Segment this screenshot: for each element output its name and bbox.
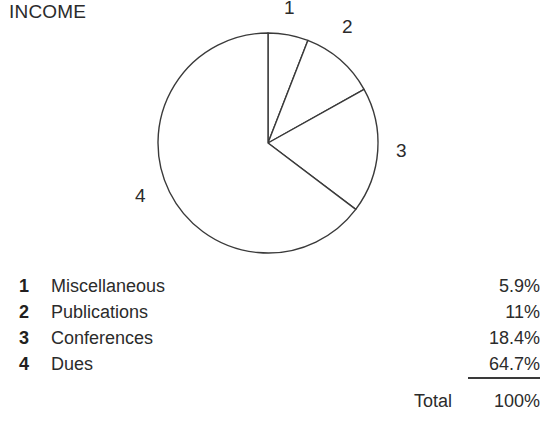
total-row: Total 100%	[0, 391, 550, 417]
pie-slice-label-3: 3	[396, 141, 407, 160]
legend-key: 1	[19, 276, 33, 297]
legend-row: 2 Publications 11%	[0, 302, 550, 328]
legend-label: Dues	[51, 354, 93, 375]
income-pie-chart: INCOME 1 2 3 4 1 Miscellaneous 5.9% 2 Pu…	[0, 0, 550, 423]
legend-value: 5.9%	[499, 276, 540, 297]
pie-chart-area: 1 2 3 4	[0, 0, 440, 268]
legend-row: 3 Conferences 18.4%	[0, 328, 550, 354]
total-label: Total	[414, 391, 452, 412]
legend-label: Miscellaneous	[51, 276, 165, 297]
pie-svg	[0, 0, 440, 268]
total-divider-rule	[468, 377, 540, 379]
legend-key: 4	[19, 354, 33, 375]
legend-table: 1 Miscellaneous 5.9% 2 Publications 11% …	[0, 276, 550, 380]
pie-slice-label-2: 2	[342, 17, 353, 36]
pie-slice-label-4: 4	[135, 186, 146, 205]
legend-key: 2	[19, 302, 33, 323]
legend-label: Conferences	[51, 328, 153, 349]
total-value: 100%	[494, 391, 540, 412]
legend-value: 18.4%	[489, 328, 540, 349]
legend-value: 64.7%	[489, 354, 540, 375]
pie-slices	[158, 33, 378, 253]
legend-key: 3	[19, 328, 33, 349]
legend-value: 11%	[505, 302, 540, 323]
legend-row: 1 Miscellaneous 5.9%	[0, 276, 550, 302]
legend-label: Publications	[51, 302, 148, 323]
pie-slice-label-1: 1	[284, 0, 295, 17]
